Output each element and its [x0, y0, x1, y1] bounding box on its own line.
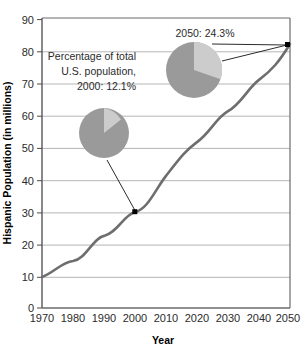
x-tick-label-2020: 2020	[185, 312, 209, 324]
y-tick-label-20: 20	[22, 239, 34, 251]
chart-figure: 90 80 70 60 50 40 30 20 10 0 1970 1980 1…	[0, 0, 307, 351]
x-tick-label-2010: 2010	[154, 312, 178, 324]
x-axis-title: Year	[152, 334, 174, 346]
annotation-2000-line3: 2000: 12.1%	[77, 80, 136, 92]
pie-chart-2000	[79, 108, 129, 158]
y-tick-label-30: 30	[22, 207, 34, 219]
x-tick-label-2040: 2040	[247, 312, 271, 324]
annotation-2000-line2: U.S. population,	[61, 65, 136, 77]
data-marker-2000	[132, 209, 137, 214]
x-tick-label-2030: 2030	[216, 312, 240, 324]
annotation-2000-line1: Percentage of total	[48, 50, 136, 62]
y-tick-label-90: 90	[22, 14, 34, 26]
x-tick-label-1990: 1990	[92, 312, 116, 324]
x-tick-label-1980: 1980	[61, 312, 85, 324]
x-tick-labels: 1970 1980 1990 2000 2010 2020 2030 2040 …	[30, 312, 300, 324]
y-tick-label-80: 80	[22, 46, 34, 58]
x-tick-label-2000: 2000	[123, 312, 147, 324]
pie-chart-2050	[166, 42, 222, 98]
y-tick-label-50: 50	[22, 142, 34, 154]
x-tick-label-1970: 1970	[30, 312, 54, 324]
y-tick-label-10: 10	[22, 271, 34, 283]
x-tick-label-2050: 2050	[276, 312, 300, 324]
y-axis-title: Hispanic Population (in millions)	[1, 82, 13, 245]
data-marker-2050	[285, 42, 290, 47]
y-tick-label-40: 40	[22, 175, 34, 187]
y-tick-label-60: 60	[22, 110, 34, 122]
y-tick-labels: 90 80 70 60 50 40 30 20 10 0	[22, 14, 34, 314]
y-tick-label-70: 70	[22, 78, 34, 90]
line-chart-svg: 90 80 70 60 50 40 30 20 10 0 1970 1980 1…	[0, 0, 307, 351]
annotation-2050-line1: 2050: 24.3%	[176, 27, 235, 39]
